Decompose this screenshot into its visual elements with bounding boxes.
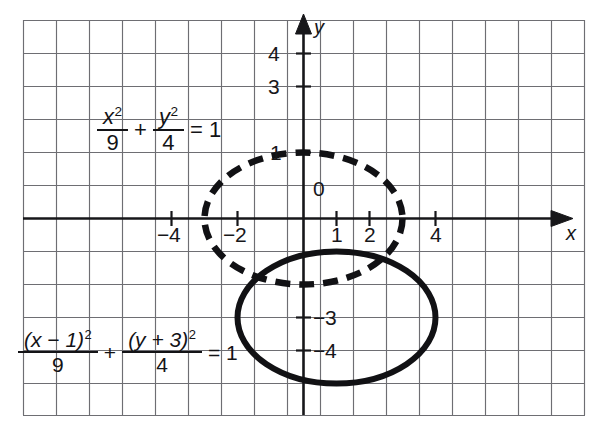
numerator-x-minus-1-squared: (x − 1)2	[18, 329, 98, 353]
numerator-x-squared: x2	[97, 106, 128, 131]
x-tick-label-1: 1	[331, 223, 342, 247]
translated-ellipse-equation: (x − 1)2 9 + (y + 3)2 4 = 1	[16, 329, 242, 375]
equals-one: = 1	[190, 119, 221, 141]
y-axis-label: y	[314, 16, 324, 39]
plus-sign: +	[134, 119, 147, 141]
fraction-y-squared-over-4: y2 4	[153, 106, 184, 154]
y-tick-label-neg4: −4	[313, 339, 336, 363]
ellipse-graph-figure: 4 3 1 −3 −4 0 −4 −2 1 2 4 y x x2 9 + y2 …	[0, 0, 598, 423]
y-tick-label-4: 4	[268, 42, 279, 66]
denominator-9: 9	[46, 353, 70, 375]
denominator-4: 4	[156, 131, 180, 154]
numerator-y-plus-3-squared: (y + 3)2	[122, 329, 202, 353]
fraction-y-plus-3-squared-over-4: (y + 3)2 4	[122, 329, 202, 375]
x-tick-label-neg4: −4	[157, 223, 180, 247]
equals-one: = 1	[208, 342, 238, 363]
y-axis-arrowhead	[296, 14, 312, 34]
standard-ellipse-equation: x2 9 + y2 4 = 1	[95, 106, 225, 154]
x-tick-label-2: 2	[364, 223, 375, 247]
y-tick-label-neg3: −3	[313, 306, 336, 330]
numerator-y-squared: y2	[153, 106, 184, 131]
y-tick-label-1: 1	[270, 141, 281, 165]
x-tick-label-neg2: −2	[223, 223, 246, 247]
fraction-x-minus-1-squared-over-9: (x − 1)2 9	[18, 329, 98, 375]
x-axis-label: x	[566, 222, 576, 245]
denominator-4: 4	[150, 353, 174, 375]
x-tick-label-4: 4	[430, 223, 441, 247]
origin-label: 0	[313, 177, 324, 201]
plus-sign: +	[104, 342, 116, 363]
fraction-x-squared-over-9: x2 9	[97, 106, 128, 154]
denominator-9: 9	[100, 131, 124, 154]
y-tick-label-3: 3	[268, 75, 279, 99]
